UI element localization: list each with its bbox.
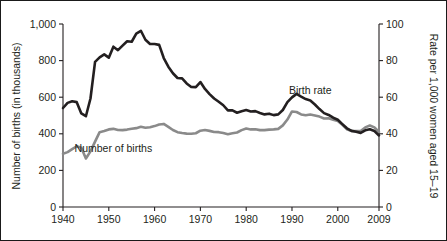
left-tick-label: 600 [38,91,56,103]
x-axis-ticks: 19401950196019701980199020002009 [51,207,391,225]
right-axis-title: Rate per 1,000 women aged 15–19 [428,34,440,199]
left-tick-label: 0 [50,201,56,213]
right-tick-label: 20 [386,164,398,176]
right-axis-ticks: 020406080100 [379,18,404,213]
series-annotation-number-of-births: Number of births [75,142,153,154]
chart-canvas: 02004006008001,000 020406080100 19401950… [1,1,447,241]
x-tick-label: 1950 [97,213,121,225]
left-axis-title: Number of births (in thousands) [10,42,22,189]
left-tick-label: 400 [38,127,56,139]
x-tick-label: 1960 [143,213,167,225]
series-annotation-birth-rate: Birth rate [289,84,332,96]
right-tick-label: 80 [386,54,398,66]
left-tick-label: 800 [38,54,56,66]
right-tick-label: 0 [386,201,392,213]
x-tick-label: 2009 [367,213,391,225]
x-tick-label: 2000 [326,213,350,225]
x-tick-label: 1970 [189,213,213,225]
right-tick-label: 40 [386,127,398,139]
x-tick-label: 1990 [280,213,304,225]
x-tick-label: 1940 [51,213,75,225]
right-tick-label: 60 [386,91,398,103]
left-tick-label: 1,000 [30,18,56,30]
left-tick-label: 200 [38,164,56,176]
right-tick-label: 100 [386,18,404,30]
left-axis-ticks: 02004006008001,000 [30,18,63,213]
chart-figure: 02004006008001,000 020406080100 19401950… [0,0,447,241]
x-tick-label: 1980 [235,213,259,225]
